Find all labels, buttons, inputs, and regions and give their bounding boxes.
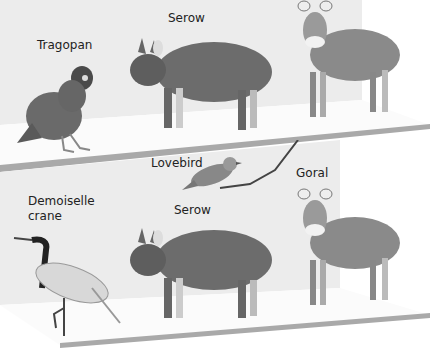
serow-bottom-illustration — [126, 218, 276, 328]
label-goral: Goral — [296, 166, 328, 181]
demoiselle-crane-illustration — [12, 228, 122, 343]
label-demoiselle-crane: Demoiselle crane — [28, 194, 95, 224]
illustration-scene: Tragopan Serow Lovebird Goral Demoiselle… — [0, 0, 437, 349]
label-demoiselle-line2: crane — [28, 209, 95, 224]
label-serow-top: Serow — [168, 11, 205, 26]
goral-bottom-illustration — [290, 188, 410, 313]
goral-top-illustration — [290, 0, 410, 125]
label-tragopan: Tragopan — [37, 38, 92, 53]
tragopan-illustration — [12, 58, 102, 158]
label-demoiselle-line1: Demoiselle — [28, 194, 95, 209]
label-serow-bottom: Serow — [174, 203, 211, 218]
serow-top-illustration — [126, 30, 276, 140]
label-lovebird: Lovebird — [151, 156, 203, 171]
